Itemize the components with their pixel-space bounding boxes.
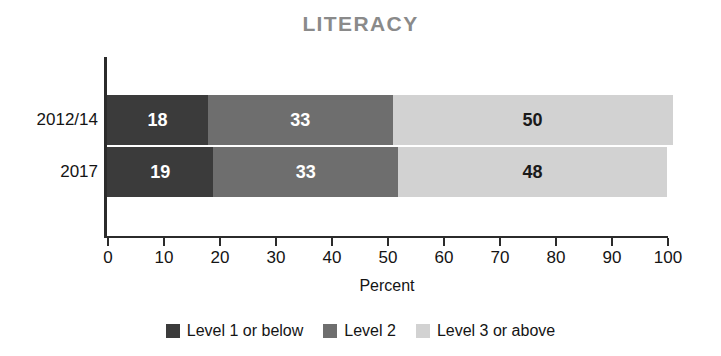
legend-item[interactable]: Level 1 or below	[166, 322, 304, 340]
legend-swatch-icon	[166, 324, 180, 338]
legend-label: Level 3 or above	[437, 322, 555, 340]
category-label: 2017	[0, 147, 98, 197]
bar-row: 193348	[107, 147, 667, 197]
x-axis-tick	[443, 238, 445, 246]
bar-segment: 33	[213, 147, 398, 197]
x-axis-tick-label: 100	[646, 248, 690, 268]
x-axis-tick	[163, 238, 165, 246]
category-label-wrap: 2017	[0, 147, 98, 197]
legend-label: Level 1 or below	[187, 322, 304, 340]
category-label-wrap: 2012/14	[0, 95, 98, 145]
x-axis-tick-label: 0	[86, 248, 130, 268]
x-axis-tick	[387, 238, 389, 246]
x-axis-tick-label: 50	[366, 248, 410, 268]
x-axis-tick	[331, 238, 333, 246]
x-axis-tick-label: 90	[590, 248, 634, 268]
chart-legend: Level 1 or belowLevel 2Level 3 or above	[0, 322, 721, 340]
x-axis-tick-label: 40	[310, 248, 354, 268]
x-axis-title: Percent	[107, 277, 667, 295]
bar-value-label: 48	[523, 162, 543, 183]
x-axis-tick-label: 10	[142, 248, 186, 268]
bar-segment: 18	[107, 95, 208, 145]
bar-segment: 48	[398, 147, 667, 197]
x-axis-tick	[499, 238, 501, 246]
bar-segment: 50	[393, 95, 673, 145]
bar-value-label: 33	[290, 110, 310, 131]
category-label: 2012/14	[0, 95, 98, 145]
x-axis-tick	[555, 238, 557, 246]
x-axis-tick	[107, 238, 109, 246]
chart-title: LITERACY	[0, 12, 721, 36]
legend-swatch-icon	[416, 324, 430, 338]
legend-item[interactable]: Level 2	[323, 322, 396, 340]
x-axis-tick-label: 70	[478, 248, 522, 268]
x-axis-tick-label: 80	[534, 248, 578, 268]
bar-value-label: 33	[296, 162, 316, 183]
bar-segment: 33	[208, 95, 393, 145]
bar-value-label: 50	[523, 110, 543, 131]
x-axis-tick	[219, 238, 221, 246]
legend-item[interactable]: Level 3 or above	[416, 322, 555, 340]
x-axis-tick	[611, 238, 613, 246]
bar-value-label: 19	[150, 162, 170, 183]
plot-area: 183350193348	[107, 57, 667, 237]
bar-row: 183350	[107, 95, 667, 145]
x-axis-tick	[667, 238, 669, 246]
bar-segment: 19	[107, 147, 213, 197]
x-axis-tick-label: 30	[254, 248, 298, 268]
x-axis-tick-label: 60	[422, 248, 466, 268]
x-axis-tick-label: 20	[198, 248, 242, 268]
x-axis-tick	[275, 238, 277, 246]
legend-label: Level 2	[344, 322, 396, 340]
literacy-stacked-bar-chart: LITERACY 183350193348 2012/142017 010203…	[0, 0, 721, 356]
legend-swatch-icon	[323, 324, 337, 338]
bar-value-label: 18	[147, 110, 167, 131]
